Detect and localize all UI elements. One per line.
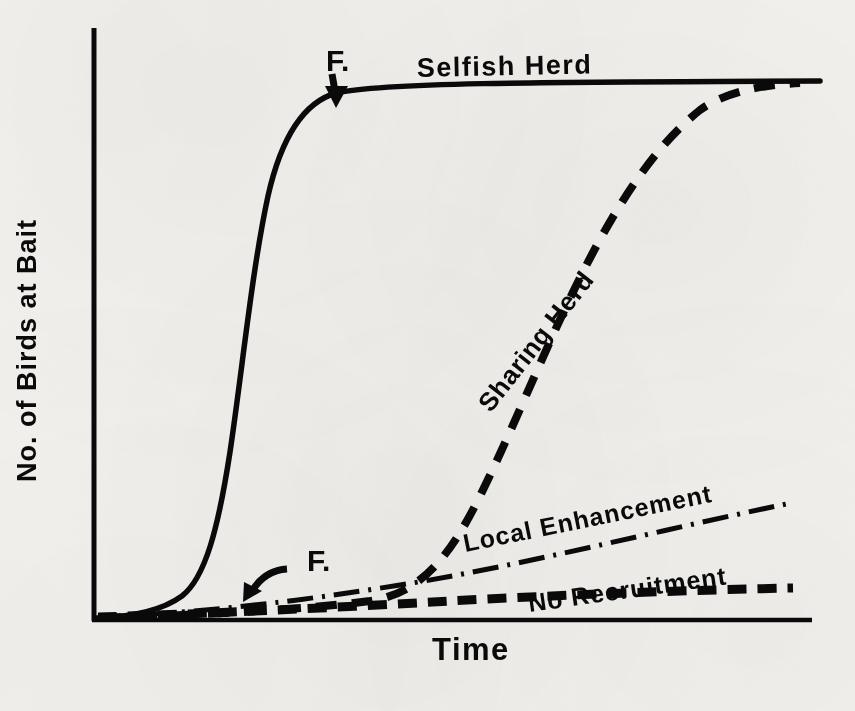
annotation-upper-f-label: F.: [326, 46, 349, 76]
lower-f-arrow-icon: [243, 569, 287, 602]
annotation-lower-f-label: F.: [307, 546, 330, 576]
x-axis-title: Time: [432, 634, 510, 665]
plot-area: [0, 0, 855, 711]
series-label-selfish-herd: Selfish Herd: [416, 51, 592, 82]
upper-f-arrow-icon: [325, 74, 348, 108]
series-sharing-herd: [100, 83, 800, 618]
figure-container: No. of Birds at Bait Time Selfish Herd S…: [0, 0, 855, 711]
y-axis-title: No. of Birds at Bait: [14, 426, 41, 482]
series-selfish-herd: [97, 81, 820, 618]
axis-lines: [92, 28, 812, 621]
